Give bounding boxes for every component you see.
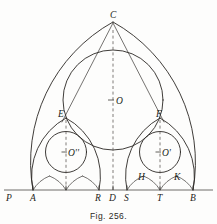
label-E: E	[57, 109, 64, 119]
label-F: F	[155, 109, 162, 119]
figure-caption: Fig. 256.	[0, 211, 217, 221]
label-D: D	[108, 193, 116, 203]
label-O-prime: O'	[162, 148, 172, 158]
chord-c-to-f	[113, 23, 164, 122]
small-arch-1-left-leg	[33, 176, 50, 190]
centre-marks-group	[62, 100, 162, 152]
label-H: H	[137, 172, 146, 182]
label-C: C	[110, 10, 117, 20]
sub-arch-left-arc-from-A	[31, 118, 66, 190]
label-O: O	[116, 96, 123, 106]
chord-c-to-e	[62, 23, 113, 122]
geometry-drawing: C O E F O'' O' H K P A R D S T B	[0, 0, 217, 224]
label-T: T	[157, 193, 163, 203]
dashed-axes-group	[66, 30, 160, 190]
small-arch-2-right-leg	[83, 176, 100, 190]
small-arch-3-right-leg	[144, 176, 161, 190]
small-arch-1-right-leg	[50, 176, 67, 190]
label-P: P	[5, 193, 12, 203]
label-O-double-prime: O''	[68, 148, 80, 158]
label-A: A	[29, 193, 36, 203]
small-arch-2-left-leg	[66, 176, 83, 190]
label-S: S	[124, 193, 129, 203]
label-R: R	[94, 193, 101, 203]
label-K: K	[173, 172, 181, 182]
figure-container: C O E F O'' O' H K P A R D S T B Fig. 25…	[0, 0, 217, 224]
baseline-labels-group: P A R D S T B	[5, 193, 196, 203]
label-B: B	[190, 193, 196, 203]
